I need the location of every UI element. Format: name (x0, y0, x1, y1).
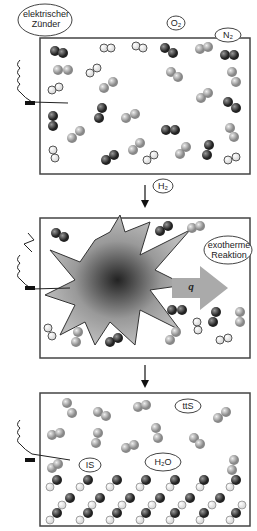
reaction-diagram (0, 0, 257, 531)
o2-label: O₂ (168, 18, 184, 28)
n2-label: N₂ (218, 30, 238, 40)
ts2-label: IS (80, 460, 100, 470)
heat-label: q (185, 282, 197, 292)
panel-after (18, 393, 251, 526)
panel-explosion (18, 215, 253, 358)
water-label: H₂O (146, 457, 180, 467)
ts1-label: ttS (176, 401, 200, 411)
igniter-label: elektrischer Zünder (20, 9, 72, 29)
h2-label: H₂ (154, 181, 172, 191)
reaction-label: exotherme Reaktion (206, 240, 252, 260)
panel-before (18, 4, 251, 193)
